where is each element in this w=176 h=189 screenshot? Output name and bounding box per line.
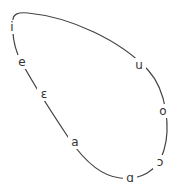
vowel-diagram: i e ɛ a ɑ ɔ o u	[0, 0, 176, 189]
vowel-loop-line	[13, 13, 167, 179]
vowel-open-e: ɛ	[41, 87, 48, 101]
vowel-open-o: ɔ	[157, 155, 164, 169]
label-gaps	[6, 20, 170, 185]
vowel-script-a: ɑ	[126, 171, 134, 185]
vowel-a: a	[71, 135, 78, 149]
vowel-e: e	[18, 55, 25, 69]
vowel-u: u	[135, 58, 143, 72]
vowel-o: o	[159, 104, 166, 118]
vowel-i: i	[10, 20, 13, 34]
vowel-ellipse-svg: i e ɛ a ɑ ɔ o u	[0, 0, 176, 189]
